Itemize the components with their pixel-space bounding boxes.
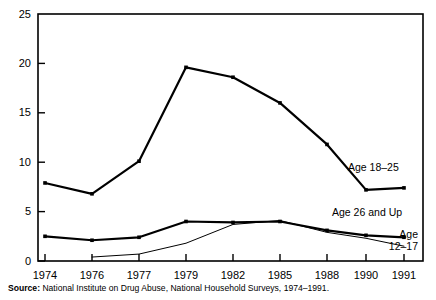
xtick-label-1977: 1977 — [127, 269, 151, 281]
plot-frame — [38, 14, 423, 261]
xtick-label-1991: 1991 — [392, 269, 416, 281]
data-point-marker — [43, 235, 47, 239]
data-point-marker — [184, 220, 188, 224]
data-point-marker — [364, 188, 368, 192]
data-point-marker — [364, 234, 368, 238]
series-1 — [43, 66, 406, 196]
series-line — [45, 221, 404, 240]
line-chart: 25 20 15 10 5 0 1974 1976 1977 1979 1982… — [0, 0, 436, 300]
data-point-marker — [402, 186, 406, 190]
data-point-marker — [90, 238, 94, 242]
data-point-marker — [278, 101, 282, 105]
ytick-label-20: 20 — [19, 57, 31, 69]
data-point-marker — [43, 181, 47, 185]
y-axis-tick-labels: 25 20 15 10 5 0 — [19, 8, 31, 267]
x-axis-tick-labels: 1974 1976 1977 1979 1982 1985 1988 1990 … — [33, 269, 416, 281]
chart-figure: 25 20 15 10 5 0 1974 1976 1977 1979 1982… — [0, 0, 436, 300]
ytick-label-5: 5 — [25, 205, 31, 217]
data-point-marker — [231, 75, 235, 79]
ytick-label-10: 10 — [19, 156, 31, 168]
xtick-label-1990: 1990 — [354, 269, 378, 281]
series-label-age-26-up: Age 26 and Up — [332, 206, 402, 218]
ytick-label-15: 15 — [19, 106, 31, 118]
ytick-label-25: 25 — [19, 8, 31, 20]
xtick-label-1988: 1988 — [315, 269, 339, 281]
data-point-marker — [137, 159, 141, 163]
source-prefix: Source: — [8, 283, 40, 293]
data-point-marker — [90, 192, 94, 196]
data-point-marker — [184, 66, 188, 70]
x-axis-ticks — [45, 254, 404, 261]
xtick-label-1976: 1976 — [80, 269, 104, 281]
source-note: Source: National Institute on Drug Abuse… — [8, 283, 432, 294]
y-axis-ticks — [38, 63, 45, 261]
series-annotations: Age 18–25 Age 26 and Up Age 12–17 — [332, 161, 418, 252]
xtick-label-1985: 1985 — [268, 269, 292, 281]
series-2 — [43, 220, 406, 242]
series-label-age-12-17-line1: Age — [399, 228, 418, 240]
data-point-marker — [231, 221, 235, 225]
data-point-marker — [137, 235, 141, 239]
series-label-age-18-25: Age 18–25 — [348, 161, 399, 173]
series-line — [45, 67, 404, 193]
data-point-marker — [325, 143, 329, 147]
series-label-age-12-17-line2: 12–17 — [389, 240, 418, 252]
xtick-label-1982: 1982 — [221, 269, 245, 281]
source-text: National Institute on Drug Abuse, Nation… — [40, 283, 329, 293]
xtick-label-1979: 1979 — [174, 269, 198, 281]
ytick-label-0: 0 — [25, 255, 31, 267]
xtick-label-1974: 1974 — [33, 269, 57, 281]
